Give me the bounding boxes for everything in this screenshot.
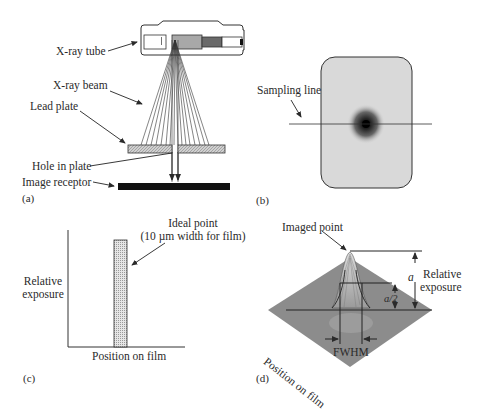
lead-plate-left xyxy=(128,145,172,153)
sampling-line-leader xyxy=(291,100,301,117)
sampling-line-label: Sampling line xyxy=(257,84,321,97)
x-axis-label: Position on film xyxy=(92,350,166,363)
lead-plate-leader xyxy=(80,111,125,143)
film-image xyxy=(321,57,412,188)
panel-label-a: (a) xyxy=(22,192,34,204)
ideal-point-label-line2: (10 µm width for film) xyxy=(128,230,258,243)
hole-leader xyxy=(90,153,172,166)
ideal-point-plot xyxy=(68,230,185,347)
a-half-label: a/2 xyxy=(384,292,397,305)
beam-arrows-through-hole xyxy=(172,152,178,180)
panel-label-c: (c) xyxy=(23,372,35,384)
a-label: a xyxy=(408,271,414,284)
relative-exposure-label-line2: exposure xyxy=(420,281,462,294)
lead-plate-right xyxy=(178,145,225,153)
hole-in-plate-label: Hole in plate xyxy=(32,160,91,173)
xray-beam-label: X-ray beam xyxy=(53,79,108,92)
y-axis-label-line2: exposure xyxy=(20,288,66,301)
image-receptor xyxy=(118,183,230,190)
xray-beam xyxy=(141,40,209,182)
xray-tube-leader xyxy=(108,42,137,51)
relative-exposure-label-line1: Relative xyxy=(423,268,461,281)
panel-label-b: (b) xyxy=(256,194,269,206)
xray-tube-label: X-ray tube xyxy=(56,45,106,58)
xray-beam-leader xyxy=(110,91,142,104)
image-receptor-label: Image receptor xyxy=(22,176,91,189)
ideal-point-leader xyxy=(132,243,165,265)
imaged-point-label: Imaged point xyxy=(282,221,343,234)
ideal-point-bar xyxy=(114,240,127,347)
xray-tube xyxy=(141,21,244,55)
lead-plate-label: Lead plate xyxy=(30,100,78,113)
fwhm-label: FWHM xyxy=(333,346,369,359)
panel-label-d: (d) xyxy=(256,372,269,384)
ideal-point-label-line1: Ideal point xyxy=(138,217,248,230)
y-axis-label-line1: Relative xyxy=(20,275,66,288)
image-receptor-leader xyxy=(93,182,114,186)
